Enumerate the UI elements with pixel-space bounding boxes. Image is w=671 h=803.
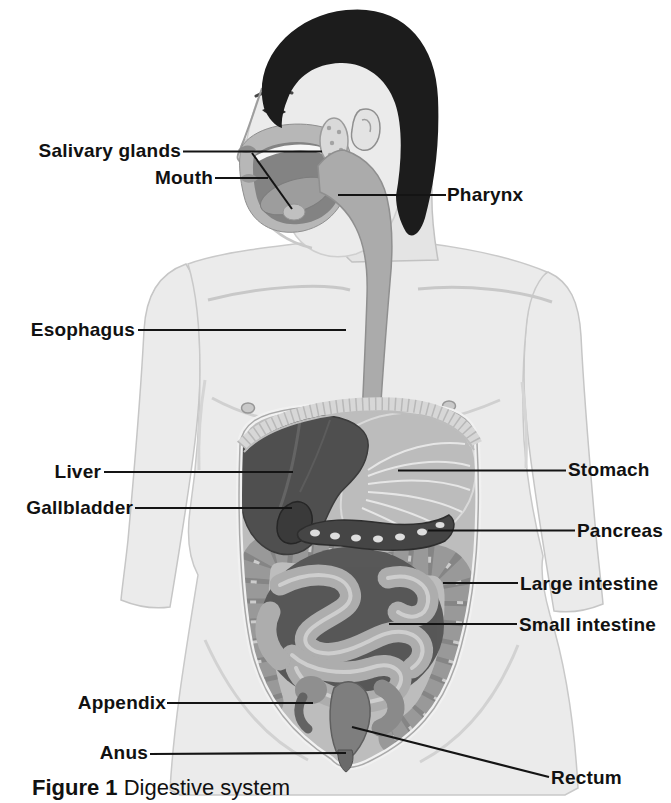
label-salivary-glands: Salivary glands [39, 140, 181, 161]
left-nipple [242, 403, 255, 413]
label-anus: Anus [100, 742, 148, 763]
ear [351, 109, 380, 150]
figure-caption-number: Figure 1 [32, 775, 118, 800]
label-large-intestine: Large intestine [520, 573, 658, 594]
digestive-system-illustration [0, 0, 671, 803]
label-liver: Liver [55, 461, 101, 482]
figure-caption: Figure 1 Digestive system [32, 775, 290, 800]
label-stomach: Stomach [568, 459, 650, 480]
label-esophagus: Esophagus [31, 319, 135, 340]
leader-anus [150, 753, 346, 754]
submandibular-gland [283, 204, 305, 220]
label-small-intestine: Small intestine [519, 614, 656, 635]
left-arm [121, 264, 200, 608]
figure-digestive-system: Salivary glands Mouth Pharynx Esophagus … [0, 0, 671, 803]
label-appendix: Appendix [78, 692, 166, 713]
figure-caption-title: Digestive system [124, 775, 290, 800]
label-mouth: Mouth [155, 167, 213, 188]
label-rectum: Rectum [551, 767, 622, 788]
label-pharynx: Pharynx [447, 184, 523, 205]
label-gallbladder: Gallbladder [26, 497, 133, 518]
label-pancreas: Pancreas [577, 520, 663, 541]
